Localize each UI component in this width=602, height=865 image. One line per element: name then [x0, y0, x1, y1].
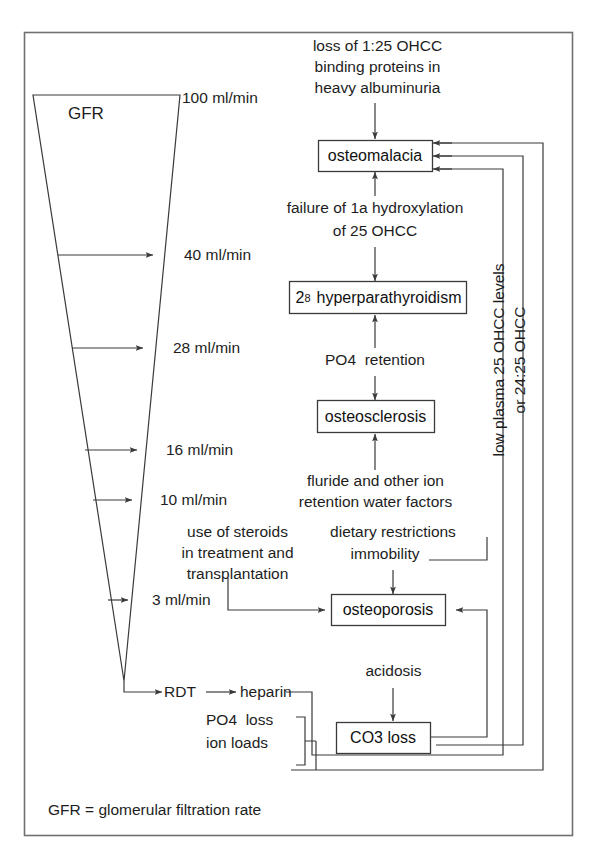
hyperpara-subscript: 8: [304, 289, 310, 307]
box-label-osteosclerosis: osteosclerosis: [317, 400, 434, 433]
gfr-tick-100: 100 ml/min: [182, 88, 258, 107]
gfr-tick-16: 16 ml/min: [166, 440, 233, 459]
box-label-co3-loss: CO3 loss: [336, 722, 430, 754]
low-plasma-rotated-line2: or 24:25 OHCC: [510, 215, 529, 505]
gfr-tick-28: 28 ml/min: [173, 338, 240, 357]
fluoride-text-line1: fluride and other ion: [278, 471, 473, 490]
gfr-wedge-label: GFR: [68, 104, 104, 123]
po4-ion-bracket: [296, 717, 316, 765]
steroids-text-line3: transplantation: [160, 564, 315, 583]
dietary-text-line2: immobility: [300, 544, 470, 563]
acidosis-text: acidosis: [341, 661, 446, 680]
po4-loss-label: PO4 loss: [206, 710, 273, 729]
gfr-tick-arrows: [58, 255, 153, 600]
hydroxylation-text-line2: of 25 OHCC: [272, 221, 478, 240]
hydroxylation-text-line1: failure of 1a hydroxylation: [272, 198, 478, 217]
steroids-text-line1: use of steroids: [160, 522, 315, 541]
po4-retention-text: PO4 retention: [295, 350, 455, 369]
gfr-tick-10: 10 ml/min: [160, 490, 227, 509]
fluoride-text-line2: retention water factors: [278, 492, 473, 511]
box-label-hyperparathyroidism: 28hyperparathyroidism: [290, 281, 467, 314]
box-label-osteomalacia: osteomalacia: [318, 140, 432, 172]
ion-loads-label: ion loads: [206, 733, 268, 752]
box-label-osteoporosis: osteoporosis: [331, 594, 445, 626]
albuminuria-text-line3: heavy albuminuria: [295, 78, 460, 97]
gfr-tick-40: 40 ml/min: [184, 245, 251, 264]
apex-to-rdt-line: [124, 681, 162, 692]
hyperpara-main: hyperparathyroidism: [317, 289, 462, 307]
footnote-text: GFR = glomerular filtration rate: [48, 800, 261, 819]
albuminuria-text-line1: loss of 1:25 OHCC: [295, 36, 460, 55]
dietary-text-line1: dietary restrictions: [300, 522, 486, 541]
steroids-text-line2: in treatment and: [160, 543, 315, 562]
diagram-canvas: GFR 100 ml/min 40 ml/min 28 ml/min 16 ml…: [0, 0, 602, 865]
rdt-label: RDT: [164, 682, 196, 701]
gfr-tick-3: 3 ml/min: [152, 590, 211, 609]
low-plasma-rotated-line1: low plasma 25 OHCC levels: [489, 215, 508, 505]
heparin-label: heparin: [240, 682, 292, 701]
albuminuria-text-line2: binding proteins in: [295, 57, 460, 76]
hyperpara-prefix: 2: [296, 289, 305, 307]
